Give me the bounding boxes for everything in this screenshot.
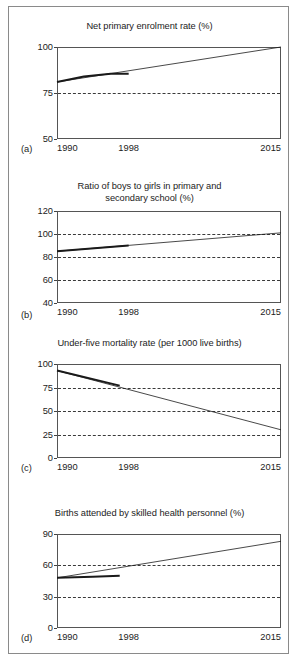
- series-layer-c: [9, 332, 290, 488]
- series-layer-b: [9, 177, 290, 333]
- series-observed-trend-a: [57, 74, 129, 82]
- series-target-path-c: [57, 371, 281, 430]
- series-target-path-b: [57, 233, 281, 251]
- series-target-path-a: [57, 47, 281, 82]
- figure-panel-container: Net primary enrolment rate (%)(a)5075100…: [8, 6, 289, 654]
- series-layer-a: [9, 15, 290, 169]
- series-layer-d: [9, 492, 290, 658]
- series-target-path-d: [57, 541, 281, 578]
